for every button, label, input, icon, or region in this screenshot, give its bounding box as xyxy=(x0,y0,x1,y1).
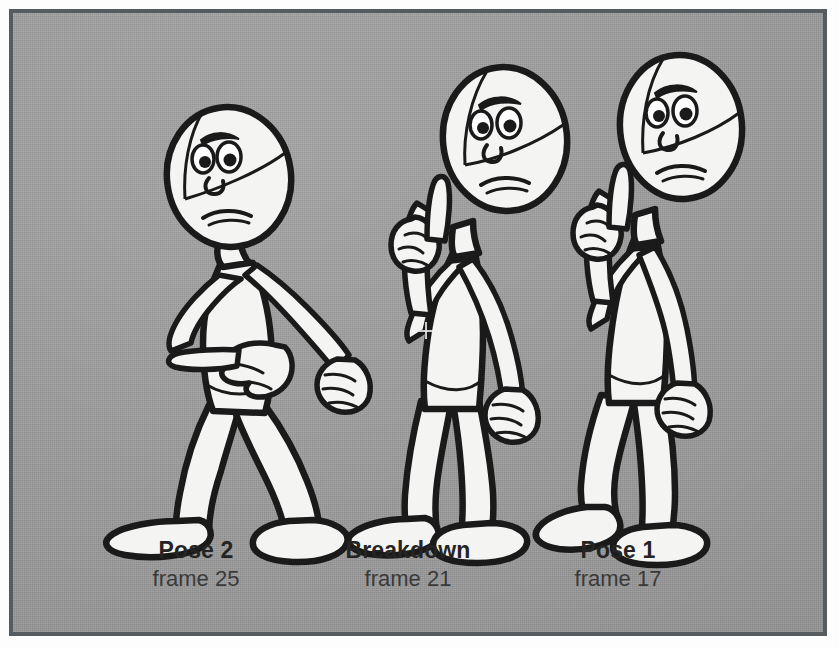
breakdown-fist-hand xyxy=(485,389,538,442)
pose1-head xyxy=(614,50,748,204)
pose1-back-leg xyxy=(536,395,635,550)
caption-pose-1-frame: frame 17 xyxy=(513,566,723,592)
caption-pose-2-frame: frame 25 xyxy=(91,566,301,592)
pose1-fist-hand xyxy=(657,383,710,436)
caption-pose-1: Pose 1 frame 17 xyxy=(513,537,723,592)
pose1-raised-hand xyxy=(573,164,631,259)
pose2-head xyxy=(158,99,300,255)
caption-pose-2-title: Pose 2 xyxy=(91,537,301,564)
pose2-fist-hand xyxy=(317,359,370,412)
breakdown-raised-hand xyxy=(391,176,449,271)
pose2-back-leg xyxy=(106,405,239,557)
caption-pose-1-title: Pose 1 xyxy=(513,537,723,564)
pose1-neck xyxy=(634,209,661,245)
pose-2-figure xyxy=(106,99,370,562)
page-canvas: .ink { fill: #f4f4f2; stroke: #1a1a1a; s… xyxy=(0,0,839,648)
breakdown-figure xyxy=(348,61,574,563)
caption-breakdown-frame: frame 21 xyxy=(303,566,513,592)
caption-breakdown-title: Breakdown xyxy=(303,537,513,564)
breakdown-head xyxy=(436,61,574,217)
caption-breakdown: Breakdown frame 21 xyxy=(303,537,513,592)
illustration-panel: .ink { fill: #f4f4f2; stroke: #1a1a1a; s… xyxy=(9,9,827,636)
breakdown-back-leg xyxy=(348,401,451,555)
breakdown-neck xyxy=(452,221,479,257)
caption-pose-2: Pose 2 frame 25 xyxy=(91,537,301,592)
